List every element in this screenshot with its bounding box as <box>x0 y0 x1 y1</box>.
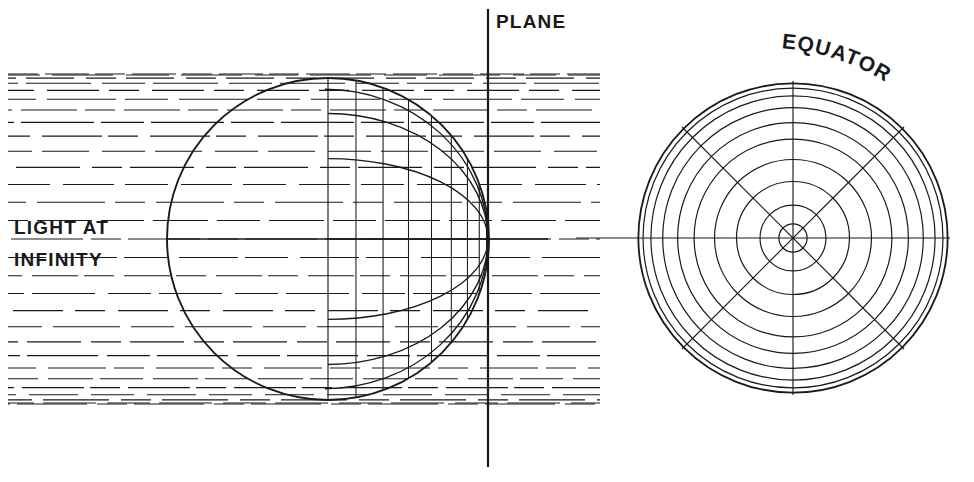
infinity-label: INFINITY <box>14 249 103 270</box>
meridian-arc <box>325 89 488 239</box>
sphere-polar-view <box>576 81 950 395</box>
diagram-canvas: PLANE LIGHT AT INFINITY EQUATOR <box>0 0 974 482</box>
meridian-arc <box>325 239 488 389</box>
equator-label-textpath: EQUATOR <box>781 29 896 86</box>
plane-label: PLANE <box>496 11 566 32</box>
polar-radial-group <box>576 81 950 395</box>
equator-label: EQUATOR <box>781 29 896 86</box>
projection-diagram: PLANE LIGHT AT INFINITY EQUATOR <box>0 0 974 482</box>
meridian-arc-group <box>325 89 488 388</box>
light-at-label: LIGHT AT <box>14 217 109 238</box>
sphere-side-view <box>167 78 548 400</box>
